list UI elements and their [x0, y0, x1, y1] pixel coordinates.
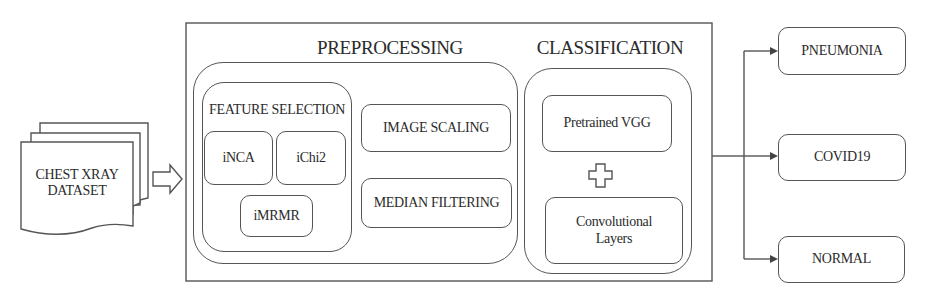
arrowhead-covid19 [770, 152, 778, 160]
component-label-conv-layers: Convolutional Layers [560, 197, 668, 264]
dataset-label: CHEST XRAY DATASET [21, 160, 133, 206]
step-label-median-filtering: MEDIAN FILTERING [361, 178, 512, 228]
feature-selection-title: FEATURE SELECTION [202, 100, 352, 120]
output-connectors [712, 51, 773, 259]
output-label-pneumonia: PNEUMONIA [778, 27, 906, 75]
step-label-image-scaling: IMAGE SCALING [361, 104, 511, 152]
output-label-normal: NORMAL [778, 236, 905, 283]
arrowhead-normal [770, 255, 778, 263]
hollow-arrow-right-icon [153, 165, 182, 193]
classification-title: CLASSIFICATION [530, 36, 690, 60]
arrowhead-pneumonia [770, 47, 778, 55]
method-label-ichi2: iChi2 [276, 131, 346, 185]
preprocessing-title: PREPROCESSING [290, 36, 490, 60]
output-label-covid19: COVID19 [778, 134, 906, 181]
dataset-label-line1: CHEST XRAY [36, 167, 119, 183]
component-label-vgg: Pretrained VGG [542, 95, 672, 152]
arrowheads [770, 47, 778, 263]
dataset-label-line2: DATASET [48, 183, 107, 199]
method-label-inca: iNCA [204, 131, 273, 185]
method-label-imrmr: iMRMR [240, 195, 313, 237]
